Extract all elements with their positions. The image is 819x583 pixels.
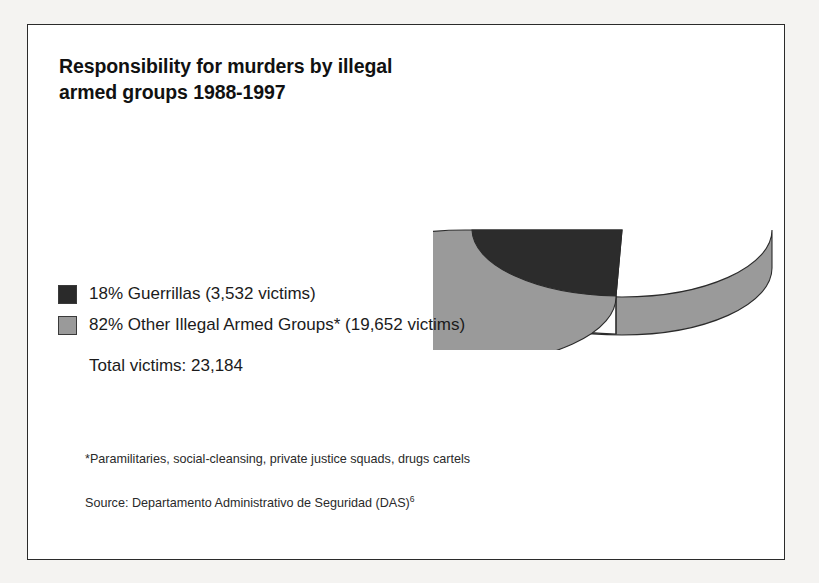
legend-label-other-illegal-armed-groups: 82% Other Illegal Armed Groups* (19,652 … <box>89 312 465 338</box>
footnote-asterisk: *Paramilitaries, social-cleansing, priva… <box>85 450 685 468</box>
title-line-2: armed groups 1988-1997 <box>59 79 459 105</box>
legend-swatch-other-illegal-armed-groups <box>58 316 77 335</box>
title-line-1: Responsibility for murders by illegal <box>59 53 459 79</box>
footnote-source: Source: Departamento Administrativo de S… <box>85 494 685 512</box>
legend: 18% Guerrillas (3,532 victims) 82% Other… <box>58 281 538 379</box>
legend-label-guerrillas: 18% Guerrillas (3,532 victims) <box>89 281 316 307</box>
source-superscript: 6 <box>410 494 415 504</box>
footnotes: *Paramilitaries, social-cleansing, priva… <box>85 450 685 512</box>
legend-item-other-illegal-armed-groups: 82% Other Illegal Armed Groups* (19,652 … <box>58 312 538 343</box>
legend-total-victims: Total victims: 23,184 <box>89 353 538 379</box>
source-text: Source: Departamento Administrativo de S… <box>85 496 410 510</box>
figure-frame: Responsibility for murders by illegal ar… <box>27 24 785 560</box>
page-title: Responsibility for murders by illegal ar… <box>59 53 459 105</box>
legend-item-guerrillas: 18% Guerrillas (3,532 victims) <box>58 281 538 312</box>
legend-swatch-guerrillas <box>58 285 77 304</box>
